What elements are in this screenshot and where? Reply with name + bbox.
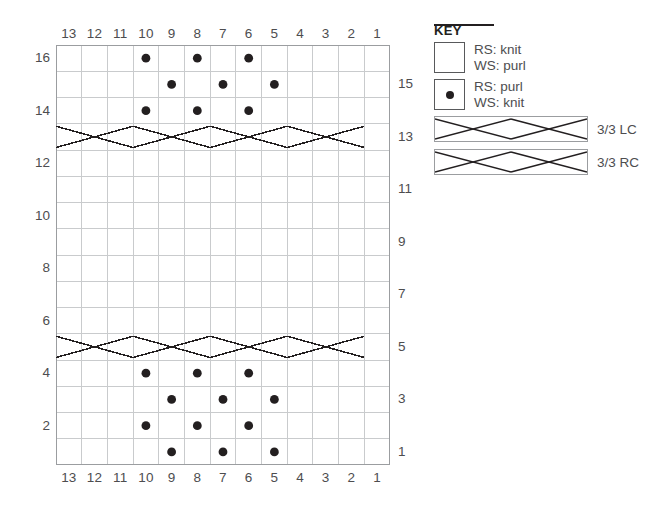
purl-dot [244,106,253,115]
purl-dot [244,54,253,63]
purl-dot [270,80,279,89]
column-label: 8 [184,24,210,44]
column-label: 4 [287,468,313,488]
purl-dot [219,80,228,89]
row-label: 13 [398,130,424,144]
empty-square-icon [434,42,465,73]
row-label: 5 [398,340,424,354]
column-label: 4 [287,24,313,44]
column-label: 12 [82,468,108,488]
column-label: 12 [82,24,108,44]
row-label: 4 [24,366,50,380]
column-label: 1 [364,24,390,44]
column-labels-bottom: 13121110987654321 [56,468,390,488]
purl-dot-icon [446,91,454,99]
chart-grid [56,45,390,465]
column-label: 9 [159,468,185,488]
purl-dot [193,106,202,115]
key-legend: KEY RS: knit WS: purl RS: purl WS: knit [432,24,658,182]
key-item-purl-text: RS: purl WS: knit [474,79,524,110]
key-top-rule [434,24,494,26]
row-labels-right: 15131197531 [398,45,424,465]
purl-dot [219,447,228,456]
key-cable-lc-label: 3/3 LC [597,122,637,137]
column-label: 13 [56,24,82,44]
column-label: 6 [236,24,262,44]
column-label: 2 [339,468,365,488]
row-labels-left: 161412108642 [24,45,50,465]
purl-dot [193,369,202,378]
column-label: 5 [262,24,288,44]
purl-dot [167,447,176,456]
purl-dot [193,54,202,63]
column-label: 1 [364,468,390,488]
column-label: 10 [133,468,159,488]
row-label: 8 [24,261,50,275]
purl-dot [270,447,279,456]
cable-3-3-lc-icon [434,116,588,142]
row-label: 14 [24,104,50,118]
key-item-knit: RS: knit WS: purl [432,42,658,73]
row-label: 15 [398,77,424,91]
purl-dot [167,395,176,404]
row-label: 10 [24,209,50,223]
column-label: 5 [262,468,288,488]
purl-dot [142,54,151,63]
key-knit-line2: WS: purl [474,58,526,74]
purl-dot [244,369,253,378]
stitch-chart: 13121110987654321 161412108642 151311975… [0,0,430,515]
chart-page: 13121110987654321 161412108642 151311975… [0,0,664,515]
row-label: 6 [24,314,50,328]
column-label: 11 [107,24,133,44]
column-label: 6 [236,468,262,488]
row-label: 9 [398,235,424,249]
key-purl-line1: RS: purl [474,79,524,95]
cable-3-3-rc-icon [434,149,588,175]
column-label: 2 [339,24,365,44]
column-label: 9 [159,24,185,44]
dot-square-icon [434,79,465,110]
row-label: 16 [24,51,50,65]
key-item-cable-rc: 3/3 RC [434,149,658,175]
chart-grid-svg [56,45,390,465]
row-label: 7 [398,287,424,301]
row-label: 1 [398,445,424,459]
key-item-knit-text: RS: knit WS: purl [474,42,526,73]
purl-dot [244,421,253,430]
column-label: 10 [133,24,159,44]
key-item-purl: RS: purl WS: knit [432,79,658,110]
row-label: 12 [24,156,50,170]
column-label: 8 [184,468,210,488]
column-label: 13 [56,468,82,488]
purl-dot [219,395,228,404]
key-item-cable-lc: 3/3 LC [434,116,658,142]
column-label: 11 [107,468,133,488]
column-labels-top: 13121110987654321 [56,24,390,44]
column-label: 7 [210,468,236,488]
row-label: 11 [398,182,424,196]
key-title: KEY [434,24,658,38]
key-knit-line1: RS: knit [474,42,526,58]
cable-lc-svg [435,117,587,141]
purl-dot [193,421,202,430]
purl-dot [270,395,279,404]
purl-dot [142,106,151,115]
column-label: 3 [313,24,339,44]
row-label: 2 [24,419,50,433]
key-cable-rc-label: 3/3 RC [597,155,639,170]
key-purl-line2: WS: knit [474,95,524,111]
row-label: 3 [398,392,424,406]
column-label: 7 [210,24,236,44]
purl-dot [142,421,151,430]
purl-dot [167,80,176,89]
column-label: 3 [313,468,339,488]
purl-dot [142,369,151,378]
cable-rc-svg [435,150,587,174]
